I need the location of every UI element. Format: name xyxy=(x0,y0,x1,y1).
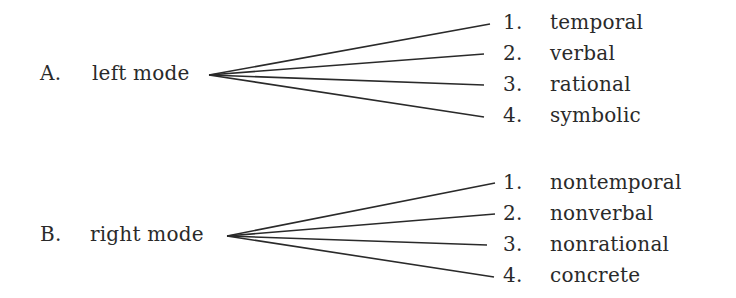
group-b-item-1-number: 1. xyxy=(503,172,522,192)
group-b-item-2-number: 2. xyxy=(503,203,522,223)
group-a-connectors xyxy=(209,24,490,117)
group-a-item-1-number: 1. xyxy=(503,12,522,32)
group-a-letter: A. xyxy=(40,63,61,83)
connector-b-4 xyxy=(227,236,494,277)
group-a-mode-label: left mode xyxy=(92,63,189,83)
group-b-mode-label: right mode xyxy=(90,224,204,244)
group-b-item-1-label: nontemporal xyxy=(550,172,682,192)
group-b-item-2-label: nonverbal xyxy=(550,203,653,223)
connector-b-1 xyxy=(227,183,495,236)
connector-a-1 xyxy=(209,24,490,75)
group-a-item-2-number: 2. xyxy=(503,43,522,63)
group-a-item-4-label: symbolic xyxy=(550,105,641,125)
group-a-item-3-number: 3. xyxy=(503,74,522,94)
group-a-item-1-label: temporal xyxy=(550,12,643,32)
connector-b-2 xyxy=(227,214,495,236)
connector-a-4 xyxy=(209,75,484,117)
group-b-item-3-label: nonrational xyxy=(550,234,669,254)
group-a-item-4-number: 4. xyxy=(503,105,522,125)
group-a-item-2-label: verbal xyxy=(550,43,615,63)
connector-a-3 xyxy=(209,75,484,85)
group-b-item-3-number: 3. xyxy=(503,234,522,254)
group-b-letter: B. xyxy=(40,224,61,244)
connector-b-3 xyxy=(227,236,487,245)
group-a-item-3-label: rational xyxy=(550,74,631,94)
group-b-connectors xyxy=(227,183,495,277)
group-b-item-4-number: 4. xyxy=(503,265,522,285)
connector-a-2 xyxy=(209,54,484,75)
group-b-item-4-label: concrete xyxy=(550,265,640,285)
